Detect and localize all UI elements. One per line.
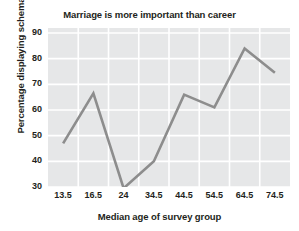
y-axis-label: Percentage displaying schema xyxy=(15,0,26,146)
x-gridlines xyxy=(78,28,260,187)
x-tick-label: 74.5 xyxy=(255,190,295,200)
x-axis-label: Median age of survey group xyxy=(20,211,299,222)
y-tick-label: 60 xyxy=(2,104,42,114)
y-tick-label: 40 xyxy=(2,155,42,165)
y-tick-label: 30 xyxy=(2,181,42,191)
chart-title: Marriage is more important than career xyxy=(0,9,299,20)
y-tick-label: 70 xyxy=(2,78,42,88)
plot-area xyxy=(48,28,290,187)
plot-svg xyxy=(48,28,290,187)
y-tick-label: 50 xyxy=(2,130,42,140)
y-tick-label: 90 xyxy=(2,27,42,37)
chart-figure: Marriage is more important than career P… xyxy=(0,0,299,231)
y-tick-label: 80 xyxy=(2,53,42,63)
